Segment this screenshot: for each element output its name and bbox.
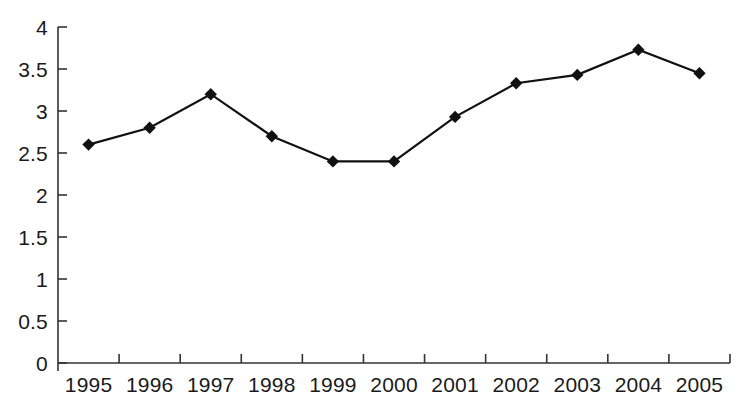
x-axis-tick-label: 2000 xyxy=(363,374,424,408)
x-axis-tick-label: 1999 xyxy=(302,374,363,408)
data-point-marker xyxy=(571,69,583,81)
x-axis-tick-label: 1998 xyxy=(241,374,302,408)
data-point-marker xyxy=(266,130,278,142)
line-chart: 00.511.522.533.54 1995199619971998199920… xyxy=(0,0,744,417)
data-point-marker xyxy=(693,67,705,79)
x-axis-tick-label: 2004 xyxy=(608,374,669,408)
data-point-marker xyxy=(82,138,94,150)
data-point-marker xyxy=(510,77,522,89)
x-axis-tick-label: 2005 xyxy=(669,374,730,408)
x-axis-tick-label: 2001 xyxy=(425,374,486,408)
x-axis-tick-labels: 1995199619971998199920002001200220032004… xyxy=(58,374,730,408)
x-axis-tick-label: 1996 xyxy=(119,374,180,408)
x-axis-tick-label: 2003 xyxy=(547,374,608,408)
data-point-marker xyxy=(205,88,217,100)
x-axis-tick-label: 1995 xyxy=(58,374,119,408)
data-point-marker xyxy=(632,43,644,55)
x-axis-tick-label: 1997 xyxy=(180,374,241,408)
y-axis-ticks xyxy=(58,27,67,363)
data-point-marker xyxy=(327,155,339,167)
axis-lines xyxy=(58,27,730,363)
data-point-marker xyxy=(143,122,155,134)
data-point-markers xyxy=(82,43,705,167)
plot-area xyxy=(0,0,744,417)
x-axis-tick-label: 2002 xyxy=(486,374,547,408)
series-line xyxy=(89,50,700,162)
